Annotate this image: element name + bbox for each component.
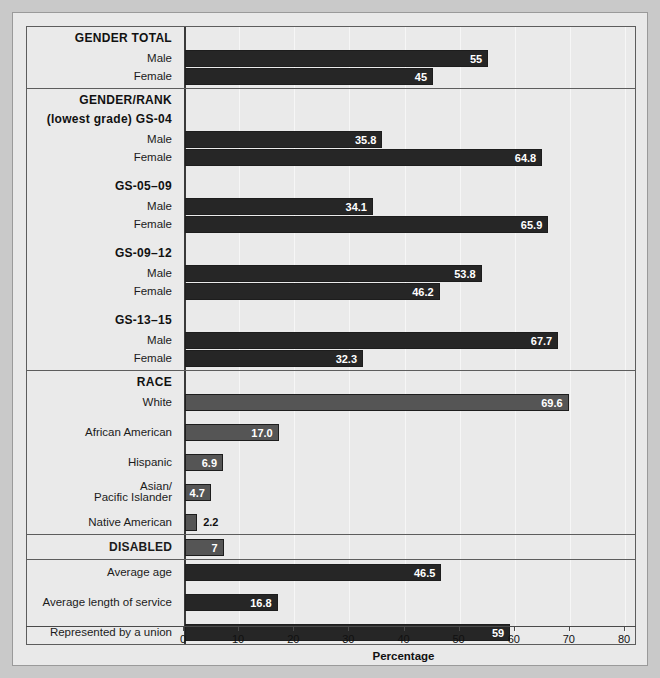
bar-value-label: 4.7 xyxy=(190,485,205,501)
bar-value-label: 64.8 xyxy=(515,150,536,166)
bar-row: White69.6 xyxy=(27,394,635,411)
bar-value-label: 65.9 xyxy=(521,217,542,233)
x-tick-10 xyxy=(238,626,239,631)
x-axis: 01020304050607080 Percentage xyxy=(26,626,636,666)
row-label-male: Male xyxy=(27,131,172,148)
bar: 32.3 xyxy=(185,350,363,367)
bar-value-label: 46.5 xyxy=(414,565,435,581)
bar-row: Male53.8 xyxy=(27,265,635,282)
row-label-line: Pacific Islander xyxy=(27,492,172,503)
x-tick-70 xyxy=(569,626,570,631)
row-label-male: Male xyxy=(27,265,172,282)
bar-value-label: 67.7 xyxy=(531,333,552,349)
row-label-average-length-of-service: Average length of service xyxy=(27,594,172,611)
bar-row: Hispanic6.9 xyxy=(27,454,635,471)
row-label-white: White xyxy=(27,394,172,411)
row-label-average-age: Average age xyxy=(27,564,172,581)
bar: 67.7 xyxy=(185,332,558,349)
row-label-male: Male xyxy=(27,198,172,215)
bar: 35.8 xyxy=(185,131,382,148)
x-tick-0 xyxy=(183,626,184,631)
row-label-hispanic: Hispanic xyxy=(27,454,172,471)
x-tick-label-20: 20 xyxy=(287,633,299,645)
bar-value-label: 34.1 xyxy=(346,199,367,215)
x-tick-label-80: 80 xyxy=(618,633,630,645)
bar-row: Native American2.2 xyxy=(27,514,635,531)
bar-value-label: 16.8 xyxy=(250,595,271,611)
bar-value-label: 69.6 xyxy=(541,395,562,411)
bar: 46.5 xyxy=(185,564,441,581)
group-heading-gs-05-09: GS-05–09 xyxy=(27,179,172,193)
bar: 64.8 xyxy=(185,149,542,166)
row-label-asian-pacific-islander: Asian/Pacific Islander xyxy=(27,481,172,503)
bar-value-label: 7 xyxy=(211,540,217,556)
section-gender-total: GENDER TOTALMale55Female45 xyxy=(26,26,636,89)
x-tick-label-40: 40 xyxy=(397,633,409,645)
x-tick-label-50: 50 xyxy=(453,633,465,645)
bar-row: Male34.1 xyxy=(27,198,635,215)
bar: 17.0 xyxy=(185,424,279,441)
bar-row: Male35.8 xyxy=(27,131,635,148)
bar-row: Average length of service16.8 xyxy=(27,594,635,611)
bar: 45 xyxy=(185,68,433,85)
bar-value-label: 32.3 xyxy=(336,351,357,367)
bar-value-label: 35.8 xyxy=(355,132,376,148)
bar-row: DISABLED7 xyxy=(27,539,635,556)
x-tick-label-10: 10 xyxy=(232,633,244,645)
x-tick-50 xyxy=(459,626,460,631)
bar: 16.8 xyxy=(185,594,278,611)
bar: 65.9 xyxy=(185,216,548,233)
section-gender-rank: GENDER/RANK(lowest grade) GS-04Male35.8F… xyxy=(26,88,636,371)
bar-row: African American17.0 xyxy=(27,424,635,441)
x-tick-label-30: 30 xyxy=(342,633,354,645)
section-race: RACEWhite69.6African American17.0Hispani… xyxy=(26,370,636,535)
row-label-female: Female xyxy=(27,350,172,367)
bar: 55 xyxy=(185,50,488,67)
x-tick-30 xyxy=(348,626,349,631)
x-tick-80 xyxy=(624,626,625,631)
group-heading-gs-09-12: GS-09–12 xyxy=(27,246,172,260)
section-subheading-gender-rank: (lowest grade) GS-04 xyxy=(27,112,172,126)
section-heading-gender-rank: GENDER/RANK xyxy=(27,93,172,107)
x-tick-label-0: 0 xyxy=(180,633,186,645)
x-tick-label-70: 70 xyxy=(563,633,575,645)
bar-value-label: 45 xyxy=(415,69,427,85)
bar: 34.1 xyxy=(185,198,373,215)
section-disabled: DISABLED7 xyxy=(26,534,636,560)
bar-row: Female45 xyxy=(27,68,635,85)
bar-value-label: 2.2 xyxy=(203,514,218,531)
bar-value-label: 17.0 xyxy=(251,425,272,441)
bar xyxy=(185,514,197,531)
row-label-male: Male xyxy=(27,50,172,67)
bar-row: Female65.9 xyxy=(27,216,635,233)
bar: 7 xyxy=(185,539,224,556)
row-label-male: Male xyxy=(27,332,172,349)
row-label-female: Female xyxy=(27,216,172,233)
bar-value-label: 53.8 xyxy=(454,266,475,282)
bar: 46.2 xyxy=(185,283,440,300)
bar: 69.6 xyxy=(185,394,569,411)
bar-row: Average age46.5 xyxy=(27,564,635,581)
bar-value-label: 46.2 xyxy=(412,284,433,300)
bar-row: Female64.8 xyxy=(27,149,635,166)
x-tick-60 xyxy=(514,626,515,631)
bar: 53.8 xyxy=(185,265,482,282)
x-axis-line xyxy=(26,626,636,627)
row-label-african-american: African American xyxy=(27,424,172,441)
bar-value-label: 55 xyxy=(470,51,482,67)
row-label-disabled: DISABLED xyxy=(27,539,172,556)
bar-row: Female32.3 xyxy=(27,350,635,367)
x-tick-label-60: 60 xyxy=(508,633,520,645)
x-axis-title: Percentage xyxy=(183,650,624,662)
plot-area: GENDER TOTALMale55Female45GENDER/RANK(lo… xyxy=(26,26,636,626)
section-heading-gender-total: GENDER TOTAL xyxy=(27,31,172,45)
row-label-native-american: Native American xyxy=(27,514,172,531)
bar: 6.9 xyxy=(185,454,223,471)
bar-row: Male55 xyxy=(27,50,635,67)
row-label-female: Female xyxy=(27,68,172,85)
bar-row: Male67.7 xyxy=(27,332,635,349)
bar: 4.7 xyxy=(185,484,211,501)
chart-figure: GENDER TOTALMale55Female45GENDER/RANK(lo… xyxy=(12,12,648,666)
group-heading-gs-13-15: GS-13–15 xyxy=(27,313,172,327)
x-tick-20 xyxy=(293,626,294,631)
